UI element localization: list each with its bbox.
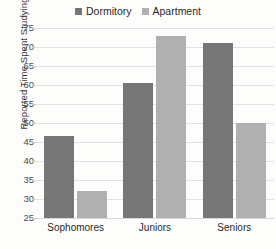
bar-chart: Dormitory Apartment Reported Time Spent … [0, 0, 276, 249]
x-axis-category-labels: SophomoresJuniorsSeniors [36, 222, 274, 233]
bars-layer [36, 28, 274, 218]
legend-label-apartment: Apartment [153, 6, 201, 17]
chart-legend: Dormitory Apartment [0, 6, 276, 17]
legend-swatch-apartment [142, 8, 149, 15]
bar-group [36, 28, 115, 218]
legend-swatch-dormitory [75, 8, 82, 15]
bar-dormitory-juniors [123, 83, 153, 218]
bar-apartment-juniors [156, 36, 186, 218]
bar-dormitory-seniors [203, 43, 233, 218]
bar-apartment-sophomores [77, 191, 107, 218]
legend-item-dormitory: Dormitory [75, 6, 132, 17]
legend-label-dormitory: Dormitory [86, 6, 132, 17]
y-axis-tick-labels: 2530354045505560657075 [14, 28, 34, 218]
bar-group [115, 28, 194, 218]
bar-apartment-seniors [236, 123, 266, 218]
gridline [36, 218, 274, 219]
x-axis-label-juniors: Juniors [115, 222, 194, 233]
x-axis-label-sophomores: Sophomores [36, 222, 115, 233]
x-axis-label-seniors: Seniors [195, 222, 274, 233]
bar-dormitory-sophomores [44, 136, 74, 218]
plot-area: 2530354045505560657075 [36, 28, 274, 218]
bar-group [195, 28, 274, 218]
y-axis-tick-mark [32, 218, 36, 219]
legend-item-apartment: Apartment [142, 6, 201, 17]
